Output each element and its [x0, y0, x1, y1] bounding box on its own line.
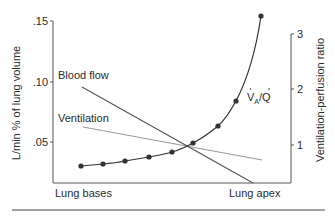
- vq-label-q: Q: [262, 91, 271, 103]
- blood-flow-label: Blood flow: [58, 69, 109, 81]
- vq-point: [258, 13, 263, 18]
- v-dot-icon: [250, 88, 252, 90]
- right-axis-title: Ventilation-perfusion ratio: [314, 38, 326, 162]
- right-tick-2: 2: [297, 83, 303, 95]
- x-label-lung-bases: Lung bases: [55, 187, 112, 199]
- vq-point: [146, 154, 151, 159]
- vq-point: [233, 98, 238, 103]
- vq-point: [169, 149, 174, 154]
- left-axis-title: L/min % of lung volume: [10, 46, 22, 160]
- left-tick-005: .05: [33, 136, 48, 148]
- vq-point: [122, 158, 127, 163]
- ventilation-line: [83, 127, 262, 160]
- right-tick-1: 1: [297, 139, 303, 151]
- x-label-lung-apex: Lung apex: [229, 187, 281, 199]
- ventilation-label: Ventilation: [58, 112, 109, 124]
- left-tick-015: .15: [33, 15, 48, 27]
- left-axis: .15 .10 .05 L/min % of lung volume: [10, 15, 53, 183]
- vq-markers: [78, 13, 263, 168]
- q-dot-icon: [268, 88, 270, 90]
- blood-flow-line: [82, 87, 253, 183]
- right-axis: 3 2 1 Ventilation-perfusion ratio: [291, 28, 326, 183]
- vq-point: [190, 140, 195, 145]
- right-tick-3: 3: [297, 28, 303, 40]
- vq-point: [215, 123, 220, 128]
- left-tick-010: .10: [33, 76, 48, 88]
- svg-text:VA/Q: VA/Q: [247, 91, 271, 105]
- ventilation-perfusion-chart: .15 .10 .05 L/min % of lung volume Lung …: [0, 0, 335, 216]
- vq-point: [78, 163, 83, 168]
- bottom-axis: Lung bases Lung apex: [53, 183, 291, 199]
- vq-point: [100, 161, 105, 166]
- vq-label: VA/Q: [247, 88, 271, 105]
